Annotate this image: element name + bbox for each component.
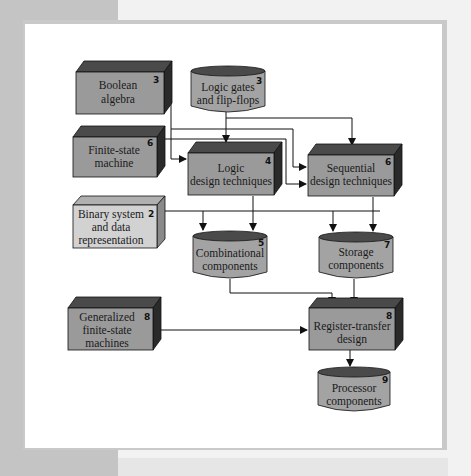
node-label: components: [202, 260, 258, 273]
node-label: Binary system: [78, 208, 144, 221]
node-sequential-design-techniques: Sequential design techniques 6: [308, 144, 402, 196]
node-processor-components: Processor components 9: [318, 367, 390, 411]
node-register-transfer-design: Register-transfer design 8: [309, 298, 403, 350]
node-label: Logic gates: [201, 81, 255, 94]
node-label: design techniques: [310, 175, 393, 188]
edge-gates-seq: [226, 118, 352, 145]
chapter-number: 6: [385, 157, 391, 167]
node-binary-system: Binary system and data representation 2: [73, 196, 165, 248]
node-label: components: [326, 395, 382, 408]
node-label: Finite-state: [88, 144, 140, 156]
chapter-number: 3: [153, 75, 159, 85]
node-label: machine: [95, 157, 134, 169]
node-label: design: [337, 333, 367, 346]
node-label: machines: [85, 337, 129, 349]
chapter-number: 8: [144, 312, 150, 322]
node-label: components: [328, 259, 384, 272]
chapter-number: 8: [386, 311, 392, 321]
node-boolean-algebra: Boolean algebra 3: [76, 61, 172, 114]
node-label: Boolean: [99, 79, 138, 91]
chapter-number: 7: [384, 240, 390, 250]
node-label: finite-state: [82, 324, 131, 336]
node-finite-state-machine: Finite-state machine 6: [73, 126, 165, 177]
node-combinational-components: Combinational components 5: [193, 231, 267, 278]
node-label: representation: [78, 234, 143, 247]
node-storage-components: Storage components 7: [319, 232, 393, 278]
node-label: Logic: [218, 162, 245, 175]
node-label: and data: [92, 221, 131, 233]
chapter-number: 2: [148, 209, 154, 219]
node-logic-gates: Logic gates and flip-flops 3: [191, 66, 265, 112]
chapter-number: 3: [256, 76, 262, 86]
node-label: algebra: [101, 93, 135, 106]
node-label: Generalized: [79, 311, 135, 323]
node-label: Combinational: [196, 247, 264, 259]
chapter-number: 6: [147, 138, 153, 148]
chapter-number: 9: [382, 375, 388, 385]
node-label: Processor: [332, 382, 377, 394]
node-generalized-fsm: Generalized finite-state machines 8: [68, 297, 161, 350]
dependency-diagram: Boolean algebra 3 Logic gates and flip-f…: [0, 0, 471, 476]
node-label: Register-transfer: [313, 320, 390, 333]
chapter-number: 4: [265, 156, 271, 166]
node-label: Sequential: [327, 162, 376, 175]
node-logic-design-techniques: Logic design techniques 4: [188, 142, 282, 195]
node-label: and flip-flops: [197, 94, 260, 107]
chapter-number: 5: [258, 238, 264, 248]
node-label: design techniques: [190, 175, 273, 188]
node-label: Storage: [338, 246, 373, 259]
